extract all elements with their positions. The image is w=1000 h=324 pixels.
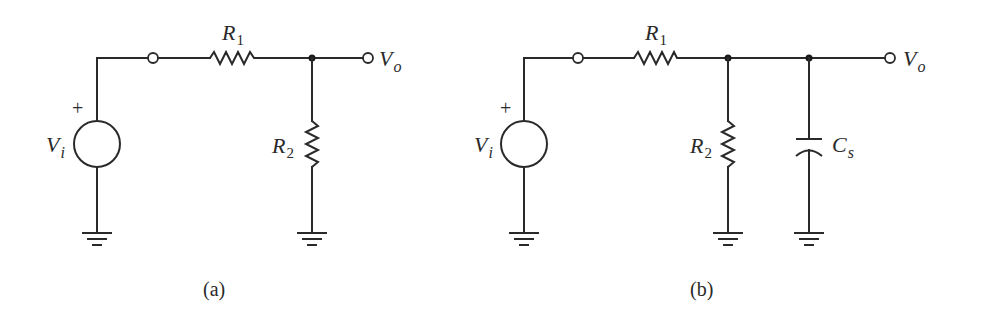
output-terminal-a — [363, 53, 373, 63]
voltage-source-b — [501, 121, 547, 167]
resistor-r1-b — [634, 52, 680, 64]
r1-label-a: R1 — [221, 20, 244, 48]
resistor-r2-b — [722, 121, 734, 167]
wire-b-input — [524, 58, 573, 121]
circuit-diagram: + Vi R1 R2 Vo (a) — [0, 0, 1000, 324]
resistor-r2-a — [306, 121, 318, 167]
source-label-b: Vi — [474, 132, 493, 161]
input-terminal-b — [573, 53, 583, 63]
polarity-plus-a: + — [72, 97, 83, 119]
output-terminal-b — [885, 53, 895, 63]
cs-label-b: Cs — [832, 132, 854, 161]
resistor-r1-a — [210, 52, 257, 64]
r2-label-a: R2 — [271, 133, 294, 161]
wire-a-input — [97, 58, 148, 121]
ground-icon — [795, 233, 823, 245]
input-terminal-a — [148, 53, 158, 63]
voltage-source-a — [74, 121, 120, 167]
source-label-a: Vi — [46, 132, 65, 161]
polarity-plus-b: + — [500, 97, 511, 119]
ground-icon — [298, 233, 326, 245]
ground-icon — [714, 233, 742, 245]
caption-b: (b) — [690, 278, 713, 301]
ground-icon — [510, 233, 538, 245]
ground-icon — [83, 233, 111, 245]
caption-a: (a) — [203, 278, 225, 301]
output-label-b: Vo — [903, 46, 925, 75]
output-label-a: Vo — [379, 46, 401, 75]
r2-label-b: R2 — [689, 133, 712, 161]
r1-label-b: R1 — [644, 20, 667, 48]
circuit-a: + Vi R1 R2 Vo (a) — [46, 20, 401, 301]
circuit-b: + Vi R1 R2 Cs Vo (b) — [474, 20, 925, 301]
